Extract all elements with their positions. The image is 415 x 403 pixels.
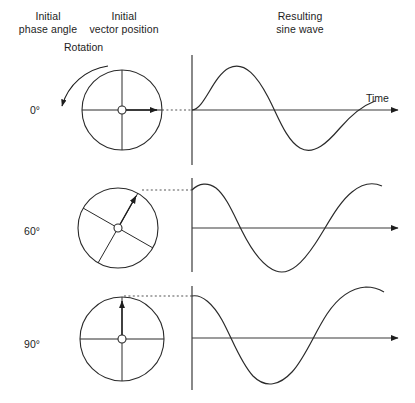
row-0deg-wave-plot	[192, 55, 398, 165]
row-60deg-wave-plot	[192, 178, 398, 272]
rotation-arrow-arc	[62, 66, 108, 106]
phase-vector-60deg	[118, 196, 136, 228]
sine-curve-90deg	[192, 287, 384, 384]
circle-origin-hub-90deg	[118, 335, 126, 343]
sine-curve-0deg	[192, 66, 375, 150]
figure-vector-graphics	[0, 0, 415, 403]
row-0deg-vector-diagram	[62, 66, 192, 150]
row-90deg-vector-diagram	[80, 296, 192, 381]
circle-origin-hub-0deg	[118, 106, 126, 114]
row-90deg-wave-plot	[192, 286, 398, 390]
phase-angle-figure: Initial phase angle Initial vector posit…	[0, 0, 415, 403]
circle-origin-hub-60deg	[114, 224, 122, 232]
row-60deg-vector-diagram	[78, 188, 192, 268]
